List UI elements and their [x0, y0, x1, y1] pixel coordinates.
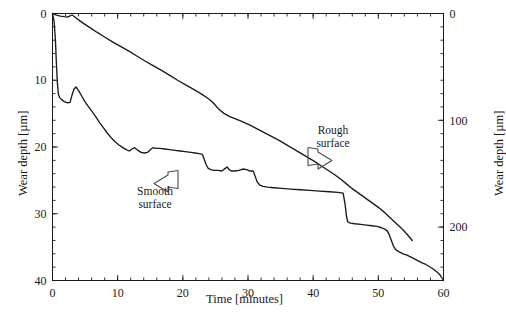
- y-tick-label-right: 0: [450, 7, 456, 21]
- y-tick-label-right: 200: [450, 220, 468, 234]
- annotation-smooth-surface: Smooth surface: [124, 185, 186, 211]
- x-tick-label: 10: [112, 286, 124, 300]
- x-tick-label: 20: [177, 286, 189, 300]
- x-tick-label: 60: [438, 286, 450, 300]
- annotation-smooth-line-2: surface: [124, 198, 186, 211]
- annotation-smooth-line-1: Smooth: [124, 185, 186, 198]
- y-axis-right-title: Wear depth [µm]: [492, 111, 506, 196]
- axis-ticks: [53, 14, 444, 281]
- y-tick-label-left: 10: [35, 73, 47, 87]
- y-tick-label-left: 40: [35, 274, 47, 288]
- y-tick-label-right: 100: [450, 114, 468, 128]
- annotation-rough-line-1: Rough: [302, 124, 364, 137]
- smooth-surface-curve: [53, 14, 444, 281]
- y-tick-label-left: 0: [41, 7, 47, 21]
- y-tick-label-left: 20: [35, 140, 47, 154]
- annotation-rough-line-2: surface: [302, 137, 364, 150]
- x-tick-label: 40: [307, 286, 319, 300]
- annotation-rough-surface: Rough surface: [302, 124, 364, 150]
- x-tick-label: 0: [50, 286, 56, 300]
- y-tick-label-left: 30: [35, 207, 47, 221]
- y-axis-left-title: Wear depth [µm]: [16, 111, 30, 196]
- x-tick-label: 50: [372, 286, 384, 300]
- plot-frame: [53, 14, 444, 281]
- x-axis-title: Time [minutes]: [206, 292, 283, 306]
